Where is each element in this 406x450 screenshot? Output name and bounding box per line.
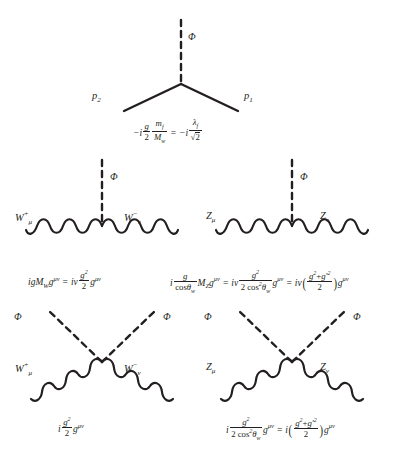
f1-minus-i: −i <box>133 128 142 138</box>
f3-w-sub2: w <box>266 287 270 293</box>
f4-i: i <box>58 424 61 434</box>
w-minus-subscript-d4: ν <box>138 369 141 377</box>
higgs-label-left-d5: Φ <box>204 312 212 322</box>
f5-gg-num: g2+g′2 <box>294 418 319 429</box>
f5-eq: = <box>277 425 282 435</box>
z-mu-label-d3: Zμ <box>206 211 215 224</box>
f4-g-squared: g2 <box>62 417 72 428</box>
f2-den: 2 <box>79 281 89 290</box>
f1-minus-i-2: −i <box>179 128 188 138</box>
f1-m-f: mf <box>152 119 166 132</box>
f1-equals: = <box>171 128 176 138</box>
f1-lambda-f: λf <box>189 118 202 131</box>
w-minus-subscript: ν <box>138 218 141 226</box>
f5-paren-close: ) <box>320 423 324 437</box>
f2-munu2: μν <box>95 275 101 282</box>
f3-munu-c: μν <box>342 275 348 282</box>
formula-zzhh-coupling: ig22 cos2θwgμν=i(g2+g′22)gμν <box>226 417 335 441</box>
p2-subscript: 2 <box>97 96 101 104</box>
f3-frac-gg-2: g2+g′22 <box>307 271 332 291</box>
formula-wwhh-coupling: ig22gμν <box>58 417 84 437</box>
w-plus-subscript: μ <box>29 218 33 226</box>
f5-munu-a: μν <box>268 422 274 429</box>
f3-paren-open: ( <box>302 276 306 290</box>
fermion-line-left-d1 <box>124 84 181 111</box>
w-plus-symbol: W <box>15 212 24 223</box>
higgs-dashed-line-left-d5 <box>238 310 292 362</box>
f5-gg-sup2: 2 <box>314 417 317 423</box>
higgs-label-d1: Φ <box>188 32 196 42</box>
z-nu-label-d3: Zν <box>320 211 329 224</box>
z-mu-wavy-line-d3 <box>216 219 292 234</box>
z-mu-label-d5: Zμ <box>206 362 215 375</box>
f2-lead-group: igMWgμν <box>28 277 60 287</box>
momentum-label-p2-d1: p2 <box>92 91 101 104</box>
w-plus-label-d4: W+μ <box>15 362 32 377</box>
z-nu-subscript-d5: ν <box>326 367 329 375</box>
z-mu-subscript-d5: μ <box>212 367 216 375</box>
w-plus-wavy-line-d2 <box>26 219 102 234</box>
f3-i1: i <box>170 278 173 288</box>
higgs-label-right-d5: Φ <box>353 312 361 322</box>
feynman-diagram-lines <box>0 0 406 450</box>
higgs-label-right-d4: Φ <box>163 312 171 322</box>
f5-g-squared: g2 <box>230 417 262 428</box>
f5-w-sub: w <box>257 434 261 440</box>
f1-radicand: 2 <box>195 132 200 142</box>
w-plus-symbol-d4: W <box>15 363 24 374</box>
f2-munu1: μν <box>53 275 59 282</box>
w-minus-label-d4: W−ν <box>124 362 141 377</box>
f1-frac-lambda-sqrt2: λf√2 <box>189 118 202 141</box>
f1-sqrt2: √2 <box>189 131 202 141</box>
f5-munu-b: μν <box>329 422 335 429</box>
z-nu-wavy-line-d3 <box>292 219 368 234</box>
f5-den-lead: 2 cos <box>231 429 249 439</box>
f4-sq: 2 <box>68 416 71 422</box>
f3-gg-sup2: 2 <box>327 270 330 276</box>
formula-zz-higgs-coupling: igcosθwMZgμν=ivg22 cos2θwgμν=iv(g2+g′22)… <box>170 270 349 294</box>
z-mu-subscript: μ <box>212 216 216 224</box>
f5-sq: 2 <box>247 416 250 422</box>
f3-munu-a: μν <box>214 275 220 282</box>
fermion-line-right-d1 <box>181 84 238 111</box>
f1-g: g <box>143 122 150 132</box>
z-mu-wavy-line-d5 <box>221 359 292 401</box>
f3-sq2: 2 <box>256 269 259 275</box>
f3-g-num: g <box>174 272 197 282</box>
f3-frac-g-costheta: gcosθw <box>174 272 197 294</box>
f5-paren-open: ( <box>289 423 293 437</box>
f2-sq: 2 <box>85 269 88 275</box>
f2-g-squared: g2 <box>79 270 89 281</box>
z-nu-subscript: ν <box>326 216 329 224</box>
f3-2cos2-theta-w: 2 cos2θw <box>239 281 271 294</box>
f3-munu-b: μν <box>277 275 283 282</box>
f4-munu: μν <box>78 422 84 429</box>
f3-g-squared: g2 <box>239 270 271 281</box>
f3-gg-den: 2 <box>307 282 332 291</box>
f2-iv: iv <box>71 277 78 287</box>
f1-M-w: Mw <box>152 132 166 144</box>
w-plus-label-d2: W+μ <box>15 211 32 226</box>
formula-ww-higgs-coupling: igMWgμν=ivg22gμν <box>28 270 101 290</box>
momentum-label-p1-d1: p1 <box>244 91 253 104</box>
w-plus-subscript-d4: μ <box>29 369 33 377</box>
f1-f-sub: f <box>162 124 164 130</box>
higgs-dashed-line-right-d5 <box>292 310 346 362</box>
f3-gg-num: g2+g′2 <box>307 271 332 282</box>
f4-frac-g2-2: g22 <box>62 417 72 437</box>
w-minus-label-d2: W−ν <box>124 211 141 226</box>
f3-cos: cos <box>175 282 187 292</box>
f3-eq1: = <box>223 278 228 288</box>
f5-frac-g2-2cos2: g22 cos2θw <box>230 417 262 441</box>
f1-frac-g-2: g2 <box>143 122 150 141</box>
f2-frac-g2-2: g22 <box>79 270 89 290</box>
f3-iv: iv <box>231 278 238 288</box>
w-minus-symbol: W <box>124 212 133 223</box>
f4-den: 2 <box>62 428 72 437</box>
f1-2: 2 <box>143 132 150 141</box>
f3-paren-close: ) <box>334 276 338 290</box>
f5-frac-gg-2: g2+g′22 <box>294 418 319 438</box>
w-plus-wavy-line-d4 <box>31 359 102 401</box>
f5-2cos2-theta-w: 2 cos2θw <box>230 428 262 441</box>
f2-equals: = <box>63 277 68 287</box>
